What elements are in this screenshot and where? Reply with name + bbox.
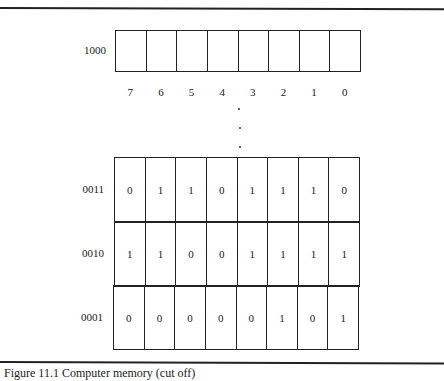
bit-cell: 0 [174, 286, 205, 349]
bottom-rule [0, 361, 444, 365]
bit-cell-3 [238, 31, 269, 71]
bit-position-5: 5 [176, 86, 207, 98]
bit-cell: 0 [297, 286, 328, 349]
bit-cell: 0 [144, 286, 175, 349]
bit-cell-5 [176, 31, 207, 71]
bit-cell: 1 [298, 222, 329, 286]
bit-cell-4 [207, 31, 238, 71]
bit-cell-7 [116, 31, 146, 71]
bit-cell: 0 [206, 222, 237, 286]
memory-location-0001: 0 0 0 0 0 1 0 1 [113, 285, 359, 350]
bit-cell: 0 [115, 158, 145, 222]
bit-position-1: 1 [299, 86, 330, 98]
bit-cell: 1 [115, 222, 145, 286]
address-label-0001: 0001 [63, 311, 103, 323]
bit-position-4: 4 [207, 86, 238, 98]
bit-cell: 1 [266, 286, 297, 349]
bit-position-6: 6 [146, 86, 177, 98]
bit-cell: 0 [175, 222, 206, 286]
bit-position-3: 3 [238, 86, 269, 98]
bit-cell: 1 [237, 158, 268, 222]
ellipsis-dot [238, 108, 240, 110]
bit-cell: 1 [327, 286, 358, 349]
ellipsis-dot [239, 127, 241, 129]
bit-cell-2 [268, 31, 299, 71]
ellipsis-dot [239, 146, 241, 148]
address-label-0010: 0010 [64, 247, 104, 259]
bit-cell: 0 [328, 158, 359, 222]
bit-cell-0 [329, 31, 360, 71]
memory-location-0011: 0 1 1 0 1 1 1 0 [114, 157, 360, 223]
bit-cell: 0 [205, 286, 236, 349]
bit-cell: 0 [114, 286, 144, 349]
address-label-1000: 1000 [66, 44, 106, 56]
bit-cell: 1 [267, 222, 298, 286]
bit-position-2: 2 [268, 86, 299, 98]
bit-cell-6 [146, 31, 177, 71]
bit-position-labels: 7 6 5 4 3 2 1 0 [115, 86, 360, 98]
figure-caption: Figure 11.1 Computer memory (cut off) [4, 366, 195, 381]
bit-cell: 1 [298, 158, 329, 222]
bit-cell: 0 [206, 158, 237, 222]
bit-position-7: 7 [115, 86, 146, 98]
bit-position-0: 0 [329, 86, 360, 98]
memory-location-0010: 1 1 0 0 1 1 1 1 [114, 221, 360, 287]
address-label-0011: 0011 [64, 183, 104, 195]
bit-cell-1 [299, 31, 330, 71]
top-rule [0, 7, 444, 10]
bit-cell: 1 [145, 222, 176, 286]
bit-cell: 1 [237, 222, 268, 286]
bit-cell: 1 [145, 158, 176, 222]
bit-cell: 1 [328, 222, 359, 286]
bit-cell: 0 [236, 286, 267, 349]
memory-location-1000 [115, 30, 361, 72]
bit-cell: 1 [267, 158, 298, 222]
bit-cell: 1 [175, 158, 206, 222]
